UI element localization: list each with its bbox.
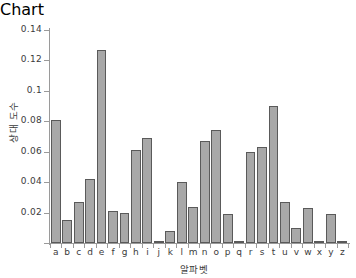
x-axis-tick [348, 243, 349, 248]
x-axis-tick-label-a: a [50, 247, 61, 257]
x-axis-tick-label-b: b [61, 247, 72, 257]
bar-t [269, 19, 279, 243]
bar-u [280, 19, 290, 243]
bar-rect-l [177, 182, 187, 243]
bar-rect-i [142, 138, 152, 243]
x-axis-tick-label-m: m [188, 247, 199, 257]
x-axis-tick-label-k: k [165, 247, 176, 257]
x-axis-tick-label-p: p [222, 247, 233, 257]
bar-chart: 상대 도수 0.020.040.060.080.10.120.14 abcdef… [0, 19, 356, 278]
x-axis-tick-label-d: d [84, 247, 95, 257]
bar-x [314, 19, 324, 243]
x-axis-tick-label-s: s [256, 247, 267, 257]
y-axis-tick-label: 0.12 [2, 55, 42, 64]
y-axis-tick-labels: 0.020.040.060.080.10.120.14 [0, 19, 42, 278]
bar-rect-z [337, 241, 347, 243]
bar-z [337, 19, 347, 243]
bar-v [291, 19, 301, 243]
bar-f [108, 19, 118, 243]
bar-b [62, 19, 72, 243]
bar-rect-c [74, 202, 84, 243]
bar-series [50, 19, 348, 243]
bar-r [246, 19, 256, 243]
bar-rect-f [108, 211, 118, 243]
x-axis-tick-label-v: v [291, 247, 302, 257]
y-axis-tick-label: 0.1 [2, 86, 42, 95]
bar-rect-t [269, 106, 279, 243]
x-axis-tick-label-g: g [119, 247, 130, 257]
x-axis-tick-label-e: e [96, 247, 107, 257]
bar-rect-x [314, 241, 324, 243]
bar-c [74, 19, 84, 243]
x-axis-tick-label-i: i [142, 247, 153, 257]
bar-rect-s [257, 147, 267, 243]
x-axis-tick-label-l: l [176, 247, 187, 257]
bar-j [154, 19, 164, 243]
bar-rect-w [303, 208, 313, 243]
x-axis-tick-label-c: c [73, 247, 84, 257]
x-axis-title: 알파벳 [0, 262, 356, 276]
bar-s [257, 19, 267, 243]
bar-n [200, 19, 210, 243]
bar-rect-j [154, 241, 164, 243]
x-axis-tick-label-f: f [107, 247, 118, 257]
x-axis-tick-label-u: u [279, 247, 290, 257]
bar-rect-g [120, 213, 130, 243]
bar-rect-o [211, 130, 221, 243]
x-axis-tick-label-y: y [325, 247, 336, 257]
y-axis-tick-label: 0.04 [2, 177, 42, 186]
bar-e [97, 19, 107, 243]
bar-h [131, 19, 141, 243]
bar-g [120, 19, 130, 243]
bar-rect-h [131, 150, 141, 243]
bar-o [211, 19, 221, 243]
x-axis-tick-label-h: h [130, 247, 141, 257]
x-axis-tick-label-r: r [245, 247, 256, 257]
x-axis-tick-label-q: q [233, 247, 244, 257]
bar-rect-y [326, 214, 336, 243]
bar-rect-k [165, 231, 175, 243]
bar-rect-u [280, 202, 290, 243]
x-axis-tick-label-j: j [153, 247, 164, 257]
x-axis-tick-label-t: t [268, 247, 279, 257]
y-axis-tick-label: 0.08 [2, 116, 42, 125]
bar-rect-d [85, 179, 95, 243]
y-axis-tick-label: 0.02 [2, 208, 42, 217]
bar-rect-e [97, 50, 107, 243]
bar-rect-q [234, 241, 244, 243]
bar-m [188, 19, 198, 243]
x-axis-tick-label-x: x [314, 247, 325, 257]
y-axis-tick-label: 0.06 [2, 147, 42, 156]
bar-rect-v [291, 228, 301, 243]
bar-q [234, 19, 244, 243]
bar-l [177, 19, 187, 243]
bar-p [223, 19, 233, 243]
x-axis-tick-label-o: o [210, 247, 221, 257]
bar-rect-b [62, 220, 72, 243]
bar-rect-r [246, 152, 256, 243]
x-axis-tick-label-z: z [337, 247, 348, 257]
bar-rect-n [200, 141, 210, 243]
x-axis-line [44, 243, 350, 244]
bar-d [85, 19, 95, 243]
x-axis-tick-label-n: n [199, 247, 210, 257]
bar-k [165, 19, 175, 243]
bar-a [51, 19, 61, 243]
x-axis-title-text: 알파벳 [180, 264, 209, 275]
bar-rect-p [223, 214, 233, 243]
bar-rect-a [51, 120, 61, 243]
bar-w [303, 19, 313, 243]
bar-y [326, 19, 336, 243]
y-axis-tick-label: 0.14 [2, 25, 42, 34]
x-axis-tick-label-w: w [302, 247, 313, 257]
bar-rect-m [188, 207, 198, 244]
bar-i [142, 19, 152, 243]
